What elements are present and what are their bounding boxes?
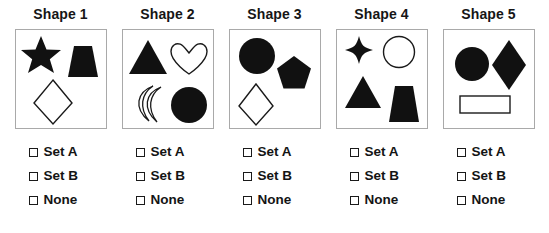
shape-column-1: Shape 1 Set A Set B None xyxy=(7,0,114,212)
option-row-set-a-3[interactable]: Set A xyxy=(243,140,292,164)
triangle-shape xyxy=(129,40,167,74)
diamond-shape xyxy=(492,40,526,90)
column-title-4: Shape 4 xyxy=(354,6,408,22)
shape-box-4 xyxy=(336,29,428,129)
checkbox-set-a-5[interactable] xyxy=(457,148,466,157)
option-label-set-a-3: Set A xyxy=(258,145,292,159)
circle-shape xyxy=(239,38,275,74)
heart-shape xyxy=(171,44,207,74)
circle-shape xyxy=(171,87,207,123)
checkbox-set-b-4[interactable] xyxy=(350,172,359,181)
option-label-set-a-4: Set A xyxy=(365,145,399,159)
checkbox-none-1[interactable] xyxy=(29,196,38,205)
option-row-set-b-3[interactable]: Set B xyxy=(243,164,293,188)
shape-box-3 xyxy=(229,29,321,129)
column-title-3: Shape 3 xyxy=(247,6,301,22)
shape-column-4: Shape 4 Set A Set B None xyxy=(328,0,435,212)
checkbox-none-2[interactable] xyxy=(136,196,145,205)
option-row-set-b-5[interactable]: Set B xyxy=(457,164,507,188)
option-row-set-a-5[interactable]: Set A xyxy=(457,140,506,164)
shape-box-5 xyxy=(443,29,535,129)
trapezoid-shape xyxy=(389,86,419,122)
rectangle-shape xyxy=(460,96,510,113)
options-group-5: Set A Set B None xyxy=(443,140,535,212)
option-label-none-3: None xyxy=(258,193,292,207)
checkbox-set-a-4[interactable] xyxy=(350,148,359,157)
option-row-set-b-4[interactable]: Set B xyxy=(350,164,400,188)
shape-box-1 xyxy=(15,29,107,129)
option-row-set-a-4[interactable]: Set A xyxy=(350,140,399,164)
checkbox-set-a-3[interactable] xyxy=(243,148,252,157)
checkbox-set-b-5[interactable] xyxy=(457,172,466,181)
checkbox-none-4[interactable] xyxy=(350,196,359,205)
diamond-shape xyxy=(34,80,72,124)
column-title-1: Shape 1 xyxy=(33,6,87,22)
option-row-none-3[interactable]: None xyxy=(243,188,292,212)
option-label-none-5: None xyxy=(472,193,506,207)
option-label-set-a-1: Set A xyxy=(44,145,78,159)
pentagon-shape xyxy=(277,56,311,89)
circle-shape xyxy=(383,37,414,68)
option-label-set-b-2: Set B xyxy=(151,169,186,183)
option-row-none-5[interactable]: None xyxy=(457,188,506,212)
option-row-none-4[interactable]: None xyxy=(350,188,399,212)
option-row-set-a-2[interactable]: Set A xyxy=(136,140,185,164)
circle-shape xyxy=(455,47,489,81)
option-label-set-b-4: Set B xyxy=(365,169,400,183)
diamond-shape xyxy=(239,84,273,125)
triangle-shape xyxy=(345,76,381,108)
option-label-set-b-1: Set B xyxy=(44,169,79,183)
trapezoid-shape xyxy=(68,46,98,77)
option-label-set-a-5: Set A xyxy=(472,145,506,159)
option-row-none-1[interactable]: None xyxy=(29,188,78,212)
option-label-none-4: None xyxy=(365,193,399,207)
column-title-2: Shape 2 xyxy=(140,6,194,22)
option-row-none-2[interactable]: None xyxy=(136,188,185,212)
option-row-set-b-1[interactable]: Set B xyxy=(29,164,79,188)
options-group-3: Set A Set B None xyxy=(229,140,321,212)
options-group-1: Set A Set B None xyxy=(15,140,107,212)
checkbox-none-5[interactable] xyxy=(457,196,466,205)
checkbox-set-b-2[interactable] xyxy=(136,172,145,181)
option-row-set-b-2[interactable]: Set B xyxy=(136,164,186,188)
shape-column-5: Shape 5 Set A Set B None xyxy=(435,0,542,212)
shape-worksheet: Shape 1 Set A Set B None Shape 2 xyxy=(0,0,549,233)
option-label-none-1: None xyxy=(44,193,78,207)
option-row-set-a-1[interactable]: Set A xyxy=(29,140,78,164)
checkbox-none-3[interactable] xyxy=(243,196,252,205)
options-group-4: Set A Set B None xyxy=(336,140,428,212)
option-label-set-b-5: Set B xyxy=(472,169,507,183)
option-label-set-a-2: Set A xyxy=(151,145,185,159)
checkbox-set-b-1[interactable] xyxy=(29,172,38,181)
shape-box-2 xyxy=(122,29,214,129)
shape-column-2: Shape 2 Set A Set B None xyxy=(114,0,221,212)
column-title-5: Shape 5 xyxy=(461,6,515,22)
option-label-set-b-3: Set B xyxy=(258,169,293,183)
checkbox-set-b-3[interactable] xyxy=(243,172,252,181)
option-label-none-2: None xyxy=(151,193,185,207)
crescent-moon-shape xyxy=(138,86,160,122)
options-group-2: Set A Set B None xyxy=(122,140,214,212)
checkbox-set-a-1[interactable] xyxy=(29,148,38,157)
checkbox-set-a-2[interactable] xyxy=(136,148,145,157)
four-pointed-star-shape xyxy=(345,36,373,64)
shape-column-3: Shape 3 Set A Set B None xyxy=(221,0,328,212)
five-pointed-star-shape xyxy=(21,36,61,73)
